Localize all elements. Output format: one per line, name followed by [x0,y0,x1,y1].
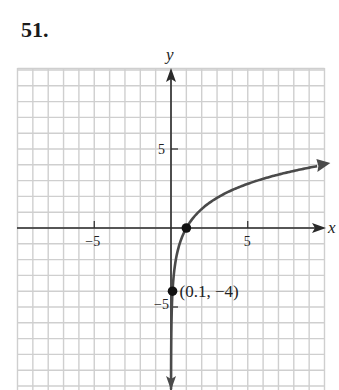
x-tick-label: −5 [85,234,100,249]
curve-arrow-right-icon [316,159,330,172]
data-point [182,223,192,233]
data-point [168,286,178,296]
point-label: (0.1, −4) [180,282,239,301]
y-tick-label: 5 [158,142,165,157]
y-axis-label: y [164,45,174,64]
curve [171,166,317,389]
y-tick-label: −5 [154,297,169,312]
x-tick-label: 5 [244,234,251,249]
log-graph: −555−5 (0.1, −4) x y [0,0,339,390]
x-axis-label: x [327,218,336,237]
